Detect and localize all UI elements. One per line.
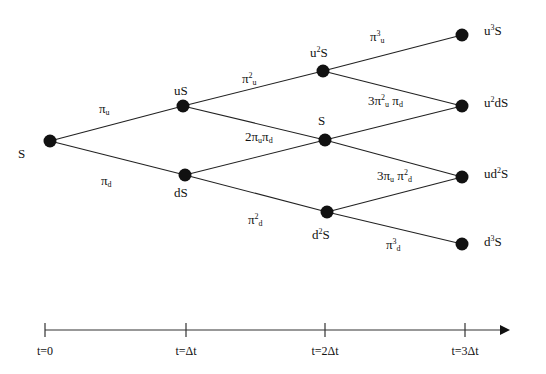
prob-label-pi2-d: π2d	[248, 213, 263, 228]
time-tick-label-2: t=2Δt	[311, 345, 338, 357]
tree-node	[456, 238, 469, 251]
tree-edge	[50, 106, 183, 141]
tree-edge	[185, 140, 325, 175]
time-tick-label-3: t=3Δt	[451, 345, 478, 357]
prob-label-2-pu-pd: 2πuπd	[245, 130, 273, 145]
arrow-head-icon	[500, 325, 510, 335]
node-label-s-mid: S	[318, 114, 325, 127]
prob-label-3-pu-pd2: 3πu π2d	[377, 169, 412, 184]
tree-edge	[325, 106, 462, 140]
time-axis	[45, 323, 510, 337]
node-label-d2s: d2S	[312, 228, 330, 241]
tree-node	[179, 169, 192, 182]
time-tick-label-1: t=Δt	[175, 345, 196, 357]
tree-node	[177, 100, 190, 113]
node-label-u2s: u2S	[310, 46, 328, 59]
tree-canvas	[0, 0, 546, 374]
tree-edge	[50, 141, 185, 175]
node-label-d3s: d3S	[484, 235, 502, 248]
prob-label-pi-d: πd	[101, 174, 112, 189]
tree-edge	[185, 175, 327, 212]
node-label-s0: S	[18, 147, 25, 160]
tree-edge	[323, 35, 462, 71]
tree-node	[317, 65, 330, 78]
tree-node	[44, 135, 57, 148]
prob-label-pi2-u: π2u	[242, 72, 257, 87]
tree-node	[319, 134, 332, 147]
time-tick-label-0: t=0	[37, 345, 53, 357]
node-label-ud2s: ud2S	[484, 167, 508, 180]
prob-label-pi3-u: π3u	[370, 30, 385, 45]
prob-label-3-pu2-pd: 3π2u πd	[368, 94, 403, 109]
tree-node	[456, 100, 469, 113]
prob-label-pi-u: πu	[99, 102, 110, 117]
node-label-u3s: u3S	[484, 24, 502, 37]
prob-label-pi3-d: π3d	[386, 238, 401, 253]
node-label-ds: dS	[174, 186, 188, 199]
node-label-us: uS	[174, 84, 188, 97]
tree-node	[456, 29, 469, 42]
node-label-u2ds: u2dS	[484, 96, 508, 109]
tree-node	[456, 171, 469, 184]
tree-node	[321, 206, 334, 219]
